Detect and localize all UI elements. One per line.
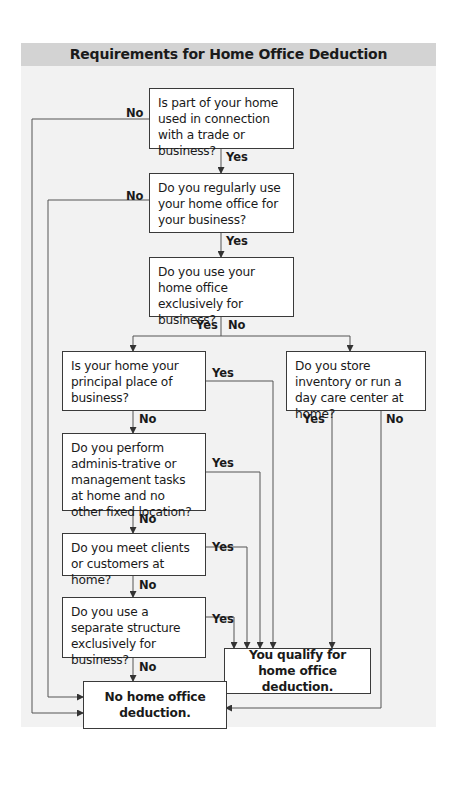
label-q5-no: No [386, 412, 404, 426]
label-q4-yes: Yes [212, 366, 234, 380]
node-no-deduction: No home office deduction. [83, 681, 227, 729]
label-q1-no: No [126, 106, 144, 120]
label-q3-no: No [228, 318, 246, 332]
node-q3: Do you use your home office exclusively … [149, 257, 294, 317]
label-q3-yes: Yes [196, 318, 218, 332]
label-q6-no: No [139, 512, 157, 526]
label-q7-no: No [139, 578, 157, 592]
label-q7-yes: Yes [212, 540, 234, 554]
label-q2-no: No [126, 189, 144, 203]
edge-q7-yes [205, 547, 247, 648]
label-q1-yes: Yes [226, 150, 248, 164]
node-q1: Is part of your home used in connection … [149, 88, 294, 149]
label-q4-no: No [139, 412, 157, 426]
no-deduction-text: No home office deduction. [92, 689, 218, 721]
label-q5-yes: Yes [303, 412, 325, 426]
edge-q4-yes [205, 381, 273, 648]
label-q8-yes: Yes [212, 612, 234, 626]
node-q4: Is your home your principal place of bus… [62, 351, 206, 411]
node-q2: Do you regularly use your home office fo… [149, 173, 294, 233]
node-q8: Do you use a separate structure exclusiv… [62, 597, 206, 658]
node-q7: Do you meet clients or customers at home… [62, 533, 206, 576]
label-q8-no: No [139, 660, 157, 674]
node-q6: Do you perform adminis-trative or manage… [62, 433, 206, 511]
node-qualify: You qualify for home office deduction. [224, 648, 371, 694]
label-q6-yes: Yes [212, 456, 234, 470]
node-q5: Do you store inventory or run a day care… [286, 351, 426, 411]
qualify-text: You qualify for home office deduction. [233, 647, 362, 695]
label-q2-yes: Yes [226, 234, 248, 248]
